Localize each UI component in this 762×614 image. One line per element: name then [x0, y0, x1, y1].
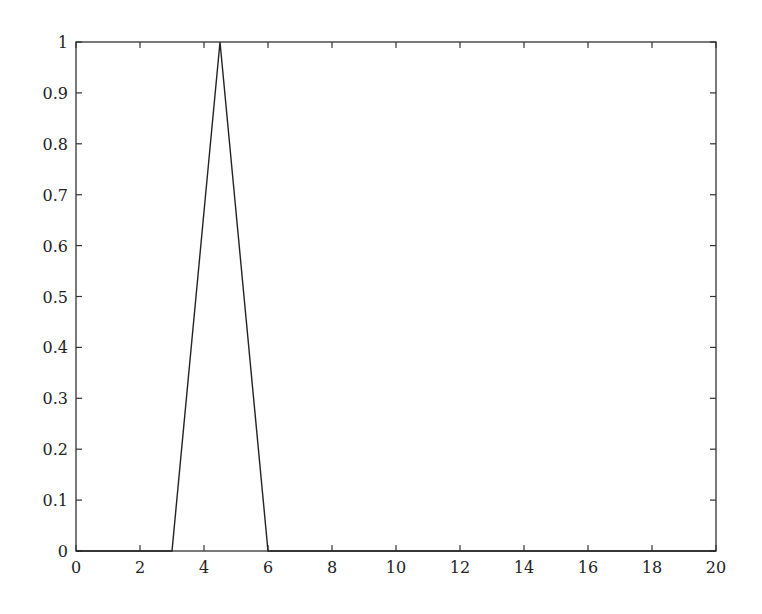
x-tick-label: 4	[199, 558, 209, 577]
y-tick-label: 1	[58, 33, 68, 52]
plot-frame	[76, 42, 716, 551]
x-tick-label: 14	[514, 558, 534, 577]
y-tick-label: 0.7	[43, 186, 68, 205]
y-tick-label: 0.4	[43, 338, 68, 357]
y-tick-label: 0.2	[43, 440, 68, 459]
x-tick-label: 2	[135, 558, 145, 577]
y-tick-label: 0.1	[43, 491, 68, 510]
y-tick-label: 0.8	[43, 135, 68, 154]
chart-area: 0246810121416182000.10.20.30.40.50.60.70…	[0, 0, 762, 614]
x-tick-label: 0	[71, 558, 81, 577]
y-tick-label: 0.9	[43, 84, 68, 103]
y-tick-label: 0.5	[43, 288, 68, 307]
x-tick-label: 18	[642, 558, 662, 577]
x-tick-label: 8	[327, 558, 337, 577]
data-line	[76, 42, 716, 551]
x-tick-label: 16	[578, 558, 598, 577]
x-tick-label: 6	[263, 558, 273, 577]
y-tick-label: 0	[58, 542, 68, 561]
x-tick-label: 10	[386, 558, 406, 577]
y-tick-label: 0.3	[43, 389, 68, 408]
y-tick-label: 0.6	[43, 237, 68, 256]
x-tick-label: 12	[450, 558, 470, 577]
x-tick-label: 20	[706, 558, 726, 577]
